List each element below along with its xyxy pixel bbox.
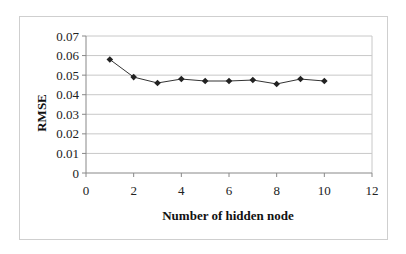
y-tick-label: 0 [73,166,80,181]
x-tick-label: 12 [366,183,379,198]
data-point-marker [321,78,328,85]
data-point-marker [250,77,257,84]
x-tick-label: 8 [273,183,280,198]
data-point-marker [154,80,161,87]
y-tick-label: 0.06 [56,48,79,63]
data-point-marker [297,76,304,83]
data-point-marker [178,76,185,83]
data-point-marker [202,78,209,85]
y-tick-label: 0.02 [56,126,79,141]
x-tick-label: 4 [178,183,185,198]
x-tick-label: 0 [83,183,90,198]
x-tick-label: 10 [318,183,331,198]
y-axis-label: RMSE [34,93,50,133]
x-axis-label: Number of hidden node [0,208,406,224]
y-tick-label: 0.05 [56,68,79,83]
y-tick-label: 0.07 [56,29,79,44]
x-tick-label: 2 [130,183,137,198]
data-point-marker [273,81,280,88]
y-tick-label: 0.01 [56,146,79,161]
x-tick-label: 6 [226,183,233,198]
y-tick-label: 0.03 [56,107,79,122]
y-tick-label: 0.04 [56,87,79,102]
series-line [110,59,325,83]
data-point-marker [226,78,233,85]
